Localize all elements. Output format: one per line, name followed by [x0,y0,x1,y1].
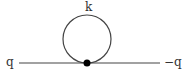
loop-momentum-label: k [85,0,93,14]
loop-propagator [63,15,111,63]
feynman-diagram: k q −q [0,0,185,72]
diagram-canvas: k q −q [0,0,185,72]
interaction-vertex [84,60,91,67]
outgoing-momentum-label: −q [164,55,182,69]
incoming-momentum-label: q [6,55,14,69]
